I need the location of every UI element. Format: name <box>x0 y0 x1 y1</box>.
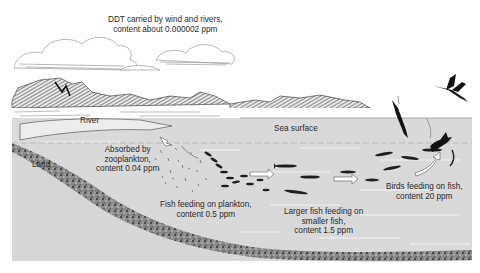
ddt-food-chain-diagram: DDT carried by wind and rivers, content … <box>0 0 480 273</box>
mountain-icon <box>12 78 370 110</box>
sea-surface-label: Sea surface <box>274 124 318 134</box>
shore <box>12 108 370 118</box>
ddt-source-line2: content about 0.000002 ppm <box>108 25 223 35</box>
river-label: River <box>80 116 99 126</box>
zooplankton-label: Absorbed by zooplankton, content 0.04 pp… <box>96 145 159 174</box>
bird-icon <box>434 74 468 102</box>
larger-fish-label: Larger fish feeding on smaller fish, con… <box>284 207 363 236</box>
birds-label: Birds feeding on fish, content 20 ppm <box>386 182 462 201</box>
ddt-source-label: DDT carried by wind and rivers, content … <box>108 15 223 34</box>
ddt-source-line1: DDT carried by wind and rivers, <box>108 15 223 25</box>
land-label: Land <box>32 160 50 170</box>
plankton-fish-label: Fish feeding on plankton, content 0.5 pp… <box>160 200 252 219</box>
illustration <box>0 0 480 273</box>
cloud-icon <box>14 37 234 70</box>
